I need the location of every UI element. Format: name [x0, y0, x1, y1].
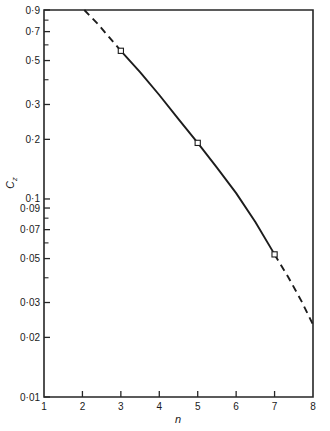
y-tick-label: 0·2: [26, 134, 41, 145]
axis-frame: [44, 10, 313, 397]
x-tick-label: 1: [41, 401, 47, 412]
y-tick-label: 0·7: [26, 26, 41, 37]
chart-container: 0·90·70·50·30·20·10·090·070·050·030·020·…: [0, 0, 330, 431]
y-tick-label: 0·07: [20, 224, 40, 235]
x-tick-label: 8: [310, 401, 316, 412]
y-tick-label: 0·03: [20, 297, 40, 308]
y-tick-label: 0·9: [26, 5, 41, 16]
y-tick-label: 0·5: [26, 55, 41, 66]
x-tick-label: 5: [195, 401, 201, 412]
x-axis-ticks: 12345678: [41, 391, 316, 412]
series-extrapolated-segment: [84, 10, 121, 51]
x-tick-label: 3: [118, 401, 124, 412]
x-tick-label: 2: [80, 401, 86, 412]
semilog-line-chart: 0·90·70·50·30·20·10·090·070·050·030·020·…: [0, 0, 330, 431]
plot-frame: [44, 10, 313, 397]
y-axis-ticks: 0·90·70·50·30·20·10·090·070·050·030·020·…: [20, 5, 50, 403]
data-point-marker: [118, 48, 123, 53]
data-point-marker: [272, 252, 277, 257]
data-point-markers: [118, 48, 277, 257]
data-point-marker: [195, 140, 200, 145]
x-tick-label: 6: [233, 401, 239, 412]
y-axis-label-subscript: z: [10, 177, 19, 182]
y-tick-label: 0·02: [20, 332, 40, 343]
x-tick-label: 4: [157, 401, 163, 412]
x-tick-label: 7: [272, 401, 278, 412]
series-extrapolated-segment: [275, 254, 313, 324]
y-axis-label: Cz: [4, 177, 19, 189]
x-axis-label-text: n: [175, 413, 181, 425]
y-tick-label: 0·3: [26, 99, 41, 110]
data-series: [84, 10, 313, 325]
y-tick-label: 0·09: [20, 203, 40, 214]
series-measured-segment: [121, 51, 275, 255]
y-tick-label: 0·01: [20, 392, 40, 403]
svg-text:Cz: Cz: [4, 177, 19, 189]
y-tick-label: 0·05: [20, 253, 40, 264]
